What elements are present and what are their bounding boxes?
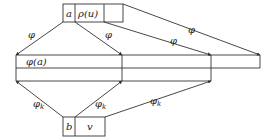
edge-label-phi-2: φ	[105, 29, 112, 40]
edge-label-phik-2: φk	[95, 98, 106, 111]
edge-label-phik-1: φk	[33, 98, 44, 111]
edge-label-phi-4: φ	[188, 24, 195, 35]
bottom-box: b v	[63, 117, 105, 136]
diagram-canvas: a ρ(u) φ(a) φ φ φ φ b v φk φk φk	[0, 0, 275, 138]
middle-band: φ(a)	[16, 55, 260, 81]
top-edges: φ φ φ φ	[16, 4, 260, 55]
edge-label-phi-3: φ	[170, 35, 177, 46]
edge-label-phi-1: φ	[28, 29, 35, 40]
middle-cell-phi-a: φ(a)	[26, 56, 47, 67]
top-box: a ρ(u)	[63, 4, 123, 22]
bottom-edges: φk φk φk	[16, 81, 211, 117]
bottom-cell-b: b	[66, 121, 72, 132]
edge-label-phik-3: φk	[150, 95, 161, 108]
top-cell-a: a	[66, 8, 72, 19]
top-cell-rho-u: ρ(u)	[77, 8, 98, 19]
bottom-cell-v: v	[87, 121, 93, 132]
